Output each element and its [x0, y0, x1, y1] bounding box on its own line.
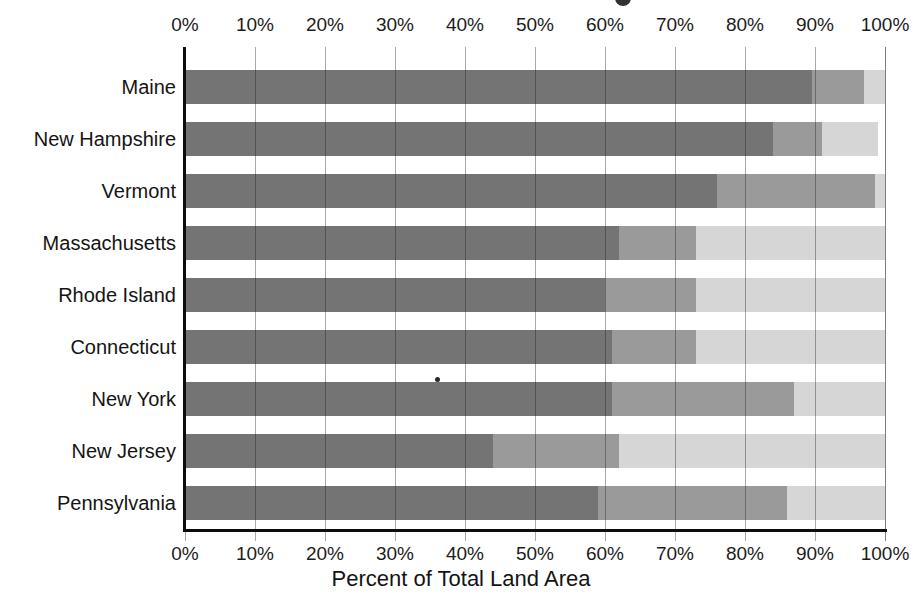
x-tick-label-top: 70%: [640, 14, 710, 36]
x-tick-label-bottom: 100%: [850, 543, 920, 565]
light-gray-segment: [696, 278, 885, 312]
gridline: [605, 47, 606, 541]
medium-gray-segment: [619, 226, 696, 260]
x-tick-label-top: 30%: [360, 14, 430, 36]
medium-gray-segment: [598, 486, 787, 520]
x-tick-label-bottom: 50%: [500, 543, 570, 565]
gridline: [325, 47, 326, 541]
stacked-bar-chart: 0%10%20%30%40%50%60%70%80%90%100% 0%10%2…: [0, 0, 922, 594]
category-label: New Jersey: [0, 434, 176, 468]
gridline: [745, 47, 746, 541]
gridline: [885, 47, 886, 541]
dark-gray-segment: [185, 122, 773, 156]
dark-gray-segment: [185, 486, 598, 520]
y-axis-line: [183, 47, 186, 532]
light-gray-segment: [696, 226, 885, 260]
light-gray-segment: [619, 434, 885, 468]
x-tick-label-top: 80%: [710, 14, 780, 36]
x-tick-label-top: 50%: [500, 14, 570, 36]
gridline: [675, 47, 676, 541]
category-label: Rhode Island: [0, 278, 176, 312]
gridline: [465, 47, 466, 541]
medium-gray-segment: [717, 174, 875, 208]
gridline: [255, 47, 256, 541]
dark-gray-segment: [185, 330, 612, 364]
category-label: New Hampshire: [0, 122, 176, 156]
medium-gray-segment: [605, 278, 696, 312]
gridline: [535, 47, 536, 541]
dark-gray-segment: [185, 174, 717, 208]
x-tick-label-top: 90%: [780, 14, 850, 36]
light-gray-segment: [696, 330, 885, 364]
x-tick-label-bottom: 30%: [360, 543, 430, 565]
x-tick-label-bottom: 40%: [430, 543, 500, 565]
category-label: Vermont: [0, 174, 176, 208]
category-label: Massachusetts: [0, 226, 176, 260]
x-tick-label-top: 40%: [430, 14, 500, 36]
x-tick-label-bottom: 80%: [710, 543, 780, 565]
x-tick-label-bottom: 70%: [640, 543, 710, 565]
x-axis-title: Percent of Total Land Area: [0, 566, 922, 592]
x-tick-label-bottom: 0%: [150, 543, 220, 565]
gridline: [815, 47, 816, 541]
medium-gray-segment: [812, 70, 865, 104]
x-tick-label-top: 60%: [570, 14, 640, 36]
x-tick-label-top: 0%: [150, 14, 220, 36]
light-gray-segment: [787, 486, 885, 520]
x-tick-label-bottom: 10%: [220, 543, 290, 565]
dark-gray-segment: [185, 226, 619, 260]
dark-gray-segment: [185, 434, 493, 468]
scan-artifact-dot: [435, 377, 440, 382]
medium-gray-segment: [612, 382, 794, 416]
light-gray-segment: [822, 122, 878, 156]
cropped-title-remnant: [615, 0, 631, 6]
category-label: New York: [0, 382, 176, 416]
x-axis-line: [183, 529, 887, 532]
x-tick-label-top: 20%: [290, 14, 360, 36]
category-label: Connecticut: [0, 330, 176, 364]
medium-gray-segment: [493, 434, 619, 468]
x-tick-label-bottom: 60%: [570, 543, 640, 565]
x-tick-label-bottom: 90%: [780, 543, 850, 565]
light-gray-segment: [875, 174, 886, 208]
gridline: [395, 47, 396, 541]
medium-gray-segment: [612, 330, 696, 364]
x-tick-label-top: 10%: [220, 14, 290, 36]
light-gray-segment: [864, 70, 885, 104]
x-tick-label-top: 100%: [850, 14, 920, 36]
light-gray-segment: [794, 382, 885, 416]
dark-gray-segment: [185, 70, 812, 104]
x-tick-label-bottom: 20%: [290, 543, 360, 565]
dark-gray-segment: [185, 382, 612, 416]
category-label: Pennsylvania: [0, 486, 176, 520]
category-label: Maine: [0, 70, 176, 104]
